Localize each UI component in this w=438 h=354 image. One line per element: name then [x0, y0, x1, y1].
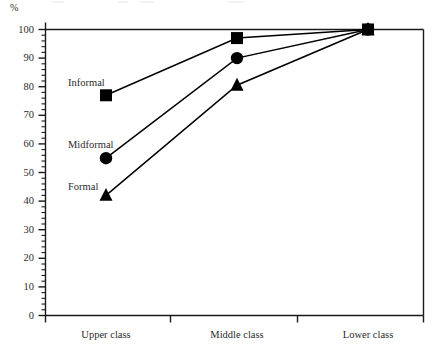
marker-circle-midformal [231, 52, 243, 64]
y-tick-label: 0 [2, 310, 34, 321]
marker-triangle-formal [231, 78, 244, 91]
x-tick-label: Lower class [343, 330, 393, 341]
marker-square-informal [231, 32, 243, 44]
y-tick-label: 10 [2, 282, 34, 293]
series-label: Formal [68, 182, 98, 193]
marker-circle-midformal [100, 152, 112, 164]
series-line-midformal [106, 30, 368, 159]
y-tick-label: 100 [2, 24, 34, 35]
y-tick-label: 20 [2, 253, 34, 264]
line-chart: % 0102030405060708090100 Upper classMidd… [0, 0, 438, 354]
marker-square-informal [100, 89, 112, 101]
x-axis-ticks [171, 316, 298, 323]
y-tick-label: 60 [2, 139, 34, 150]
x-tick-label: Middle class [210, 330, 263, 341]
chart-canvas [0, 0, 438, 354]
series-label: Informal [68, 78, 105, 89]
y-tick-label: 30 [2, 224, 34, 235]
y-axis-ticks [39, 30, 46, 316]
marker-triangle-formal [100, 188, 113, 201]
y-tick-label: 90 [2, 53, 34, 64]
y-tick-label: 50 [2, 167, 34, 178]
series-markers [100, 22, 375, 201]
series-label: Midformal [68, 140, 114, 151]
y-tick-label: 40 [2, 196, 34, 207]
plot-frame [46, 23, 424, 323]
x-tick-label: Upper class [81, 330, 130, 341]
y-axis-unit-label: % [10, 3, 18, 13]
y-tick-label: 70 [2, 110, 34, 121]
y-tick-label: 80 [2, 81, 34, 92]
